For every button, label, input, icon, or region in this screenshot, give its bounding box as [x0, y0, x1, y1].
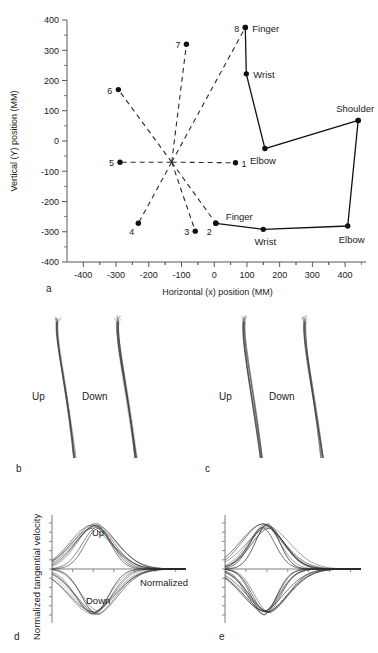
joint-label-shoulder: Shoulder: [336, 103, 374, 114]
target-spoke-6: [118, 90, 171, 163]
joint-point-finger: [243, 25, 248, 30]
y-tick-label: 400: [44, 15, 59, 25]
panel-b-hand-paths: Up Down b: [0, 300, 190, 480]
joint-label-wrist-upper: Wrist: [253, 69, 275, 80]
velocity-trace: [225, 528, 361, 569]
hand-path-trace: [118, 322, 137, 458]
target-spoke-4: [138, 162, 171, 223]
joint-point-wrist: [261, 227, 266, 232]
panel-b-trajectories: [55, 315, 138, 458]
panel-b-down-label: Down: [82, 391, 108, 402]
arm-posture-upper-posture: [245, 28, 358, 149]
y-tick-label: 300: [44, 46, 59, 56]
panel-d-down-label: Down: [86, 595, 110, 606]
velocity-trace: [52, 569, 186, 614]
joint-point-shoulder: [355, 118, 360, 123]
x-tick-label: 200: [272, 270, 287, 280]
target-spoke-8: [172, 28, 246, 163]
panel-c-down-label: Down: [269, 391, 295, 402]
panel-b-up-label: Up: [32, 391, 45, 402]
panel-d-velocity-profiles: Normalized tangential velocity Up Down N…: [0, 480, 190, 653]
y-tick-label: -200: [41, 197, 59, 207]
joint-point-finger: [213, 221, 218, 226]
target-point-1: [233, 160, 238, 165]
joint-point-wrist: [244, 71, 249, 76]
panel-letter-b: b: [16, 463, 22, 474]
x-axis-title: Horizontal (x) position (MM): [162, 287, 273, 297]
panel-c-trajectories: [242, 315, 324, 458]
target-spoke-3: [172, 162, 196, 231]
velocity-trace: [52, 528, 186, 569]
target-label-8: 8: [234, 24, 239, 34]
panel-a-arm-postures: [216, 28, 358, 230]
joint-point-elbow: [345, 223, 350, 228]
panel-a-data-points: [116, 25, 361, 234]
panel-a-position-plot: -400-300-200-1000100200300400-400-300-20…: [0, 0, 378, 300]
target-label-5: 5: [109, 158, 114, 168]
y-tick-label: -400: [41, 257, 59, 267]
velocity-trace: [225, 527, 361, 569]
hand-path-trace: [243, 322, 261, 458]
target-label-1: 1: [241, 159, 246, 169]
joint-label-elbow-upper: Elbow: [250, 155, 276, 166]
panel-letter-a: a: [46, 283, 52, 294]
x-tick-label: 400: [338, 270, 353, 280]
hand-path-trace: [305, 322, 324, 458]
panel-c-svg: Up Down: [189, 300, 378, 480]
joint-label-finger-lower: Finger: [226, 211, 253, 222]
joint-label-elbow-lower: Elbow: [339, 234, 365, 245]
panel-a-labels: 12345678FingerWristElbowShoulderFingerWr…: [107, 23, 374, 248]
panel-letter-d: d: [14, 631, 20, 642]
target-label-4: 4: [129, 227, 134, 237]
panel-d-svg: Normalized tangential velocity Up Down N…: [0, 480, 190, 653]
y-axis-title: Vertical (Y) position (MM): [9, 90, 19, 191]
x-tick-label: -400: [74, 270, 92, 280]
panel-a-target-spokes: [118, 28, 245, 232]
panel-d-x-axis-label: Normalized time: [140, 577, 190, 588]
joint-point-elbow: [262, 146, 267, 151]
panel-c-up-label: Up: [219, 391, 232, 402]
target-point-3: [193, 228, 198, 233]
y-tick-label: -100: [41, 167, 59, 177]
x-tick-label: 300: [305, 270, 320, 280]
panel-c-hand-paths: Up Down c: [189, 300, 378, 480]
panel-d-y-axis-label: Normalized tangential velocity: [31, 514, 42, 640]
target-point-5: [117, 159, 122, 164]
joint-label-wrist-lower: Wrist: [255, 236, 277, 247]
velocity-trace: [225, 569, 361, 613]
target-point-6: [116, 87, 121, 92]
hand-path-endpoint: [242, 316, 244, 322]
panel-letter-c: c: [205, 463, 210, 474]
target-spoke-2: [172, 162, 216, 223]
target-spoke-7: [172, 44, 187, 162]
x-tick-label: -100: [173, 270, 191, 280]
target-label-3: 3: [184, 227, 189, 237]
panel-a-axes: -400-300-200-1000100200300400-400-300-20…: [9, 15, 366, 297]
target-label-7: 7: [175, 40, 180, 50]
panel-e-velocity-profiles: e: [189, 480, 378, 653]
y-tick-label: 200: [44, 76, 59, 86]
target-spoke-1: [172, 162, 236, 163]
x-tick-label: 100: [239, 270, 254, 280]
joint-label-finger-upper: Finger: [252, 23, 279, 34]
y-tick-label: 100: [44, 106, 59, 116]
hand-path-trace: [245, 322, 262, 458]
y-tick-label: -300: [41, 227, 59, 237]
x-tick-label: 0: [212, 270, 217, 280]
velocity-trace: [225, 526, 361, 570]
panel-letter-e: e: [219, 631, 225, 642]
panel-b-svg: Up Down: [0, 300, 190, 480]
hand-path-endpoint: [114, 318, 117, 322]
target-point-4: [136, 221, 141, 226]
target-label-2: 2: [207, 227, 212, 237]
target-label-6: 6: [107, 86, 112, 96]
panel-a-svg: -400-300-200-1000100200300400-400-300-20…: [0, 0, 378, 300]
target-point-7: [184, 42, 189, 47]
y-tick-label: 0: [54, 136, 59, 146]
x-tick-label: -200: [140, 270, 158, 280]
x-tick-label: -300: [107, 270, 125, 280]
panel-d-up-label: Up: [92, 527, 104, 538]
panel-e-svg: [189, 480, 378, 653]
